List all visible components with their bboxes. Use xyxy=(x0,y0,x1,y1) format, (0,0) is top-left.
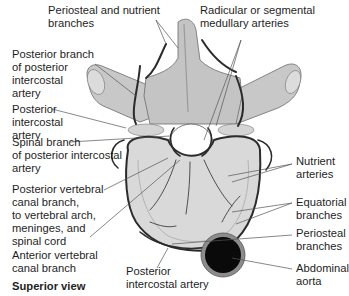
label-spinal-branch: Spinal branch of posterior intercostal a… xyxy=(12,136,122,175)
label-anterior-vertebral-canal-branch: Anterior vertebral canal branch xyxy=(12,249,98,275)
view-caption: Superior view xyxy=(12,280,85,293)
vertebra-arterial-supply-diagram: Periosteal and nutrient branches Radicul… xyxy=(0,0,349,296)
spinous-process-and-laminae xyxy=(144,19,242,124)
label-equatorial-branches: Equatorial branches xyxy=(296,196,346,222)
label-posterior-vertebral-canal-branch: Posterior vertebral canal branch, to ver… xyxy=(12,183,103,248)
label-periosteal-nutrient-branches: Periosteal and nutrient branches xyxy=(48,4,160,30)
label-posterior-intercostal-artery-lower: Posterior intercostal artery xyxy=(126,265,209,291)
label-radicular-arteries: Radicular or segmental medullary arterie… xyxy=(200,4,315,30)
label-abdominal-aorta: Abdominal aorta xyxy=(296,262,349,288)
label-periosteal-branches: Periosteal branches xyxy=(296,227,346,253)
label-nutrient-arteries: Nutrient arteries xyxy=(296,155,335,181)
label-posterior-branch: Posterior branch of posterior intercosta… xyxy=(12,48,94,100)
